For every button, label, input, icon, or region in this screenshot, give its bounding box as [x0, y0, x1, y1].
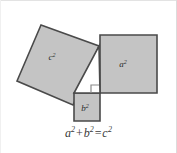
square-a-shape [100, 35, 157, 93]
caption-plus-operator: + [75, 126, 83, 140]
pythagorean-diagram: c2 a2 b2 [0, 0, 177, 128]
pythagorean-theorem-figure: c2 a2 b2 a2+b2=c2 [0, 0, 177, 153]
caption-term-c-exponent: 2 [108, 125, 112, 134]
figure-caption: a2+b2=c2 [0, 126, 177, 141]
